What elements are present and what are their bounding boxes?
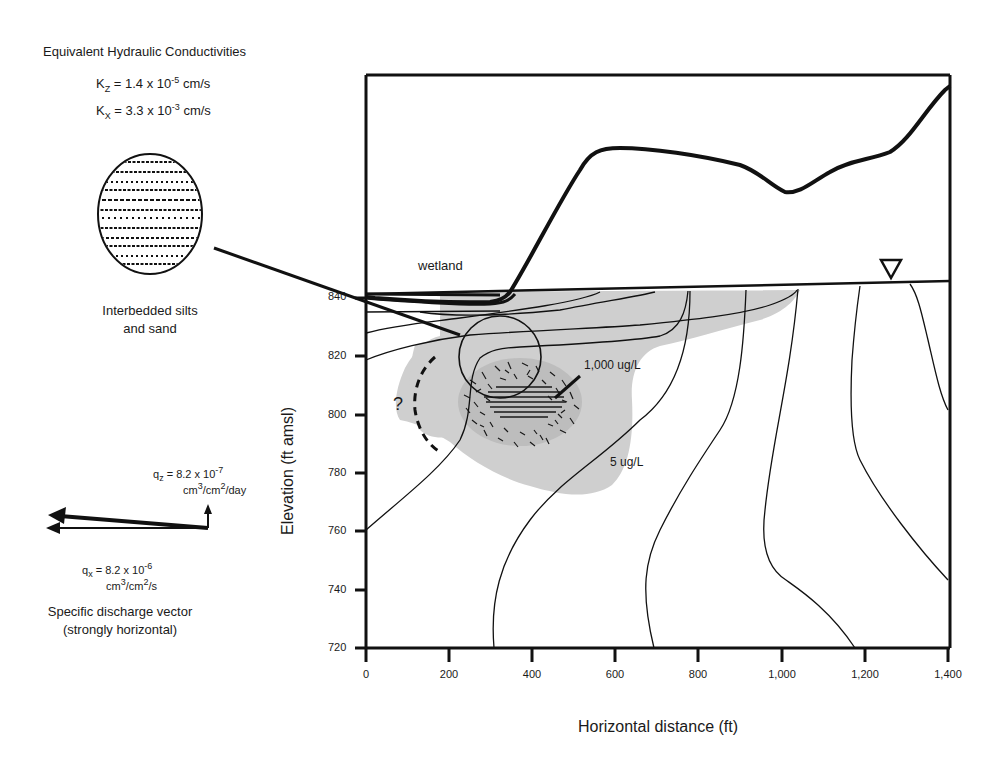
kz-number: = 1.4 x 10: [114, 76, 171, 91]
x-tick-400: 400: [512, 668, 552, 680]
kx-exp: -3: [172, 102, 180, 112]
y-tick-740: 740: [328, 583, 346, 595]
kz-sub: Z: [105, 84, 111, 94]
x-tick-1000: 1,000: [757, 668, 807, 680]
unknown-label: ?: [393, 394, 403, 415]
qz-exp: -7: [215, 465, 223, 475]
qx-unit: cm3/cm2/s: [106, 577, 157, 592]
kx-unit: cm/s: [180, 103, 211, 118]
kz-value: KZ = 1.4 x 10-5 cm/s: [96, 75, 210, 94]
x-tick-800: 800: [678, 668, 718, 680]
discharge-caption-line1: Specific discharge vector: [20, 604, 220, 619]
discharge-caption-line2: (strongly horizontal): [20, 622, 220, 637]
wetland-label: wetland: [418, 258, 463, 273]
kz-symbol: K: [96, 76, 105, 91]
qx-number: = 8.2 x 10: [93, 564, 145, 576]
qz-unit-c: /day: [225, 484, 246, 496]
y-tick-840: 840: [328, 290, 346, 302]
qz-unit-a: cm: [183, 484, 198, 496]
x-tick-200: 200: [429, 668, 469, 680]
qz-unit: cm3/cm2/day: [183, 481, 246, 496]
kx-value: KX = 3.3 x 10-3 cm/s: [96, 102, 211, 121]
y-tick-780: 780: [328, 466, 346, 478]
qx-unit-a: cm: [106, 580, 121, 592]
x-tick-1400: 1,400: [923, 668, 973, 680]
x-tick-600: 600: [595, 668, 635, 680]
kz-unit: cm/s: [179, 76, 210, 91]
inset-label-line2: and sand: [80, 321, 220, 336]
y-tick-720: 720: [328, 641, 346, 653]
conc-low-label: 5 ug/L: [610, 455, 643, 469]
legend-title: Equivalent Hydraulic Conductivities: [43, 44, 246, 59]
kx-number: = 3.3 x 10: [114, 103, 171, 118]
x-tick-0: 0: [346, 668, 386, 680]
kx-sub: X: [105, 111, 111, 121]
y-tick-820: 820: [328, 349, 346, 361]
kx-symbol: K: [96, 103, 105, 118]
y-axis-ticks: [355, 298, 366, 648]
y-tick-760: 760: [328, 524, 346, 536]
conc-high-label: 1,000 ug/L: [584, 358, 641, 372]
qx-unit-b: /cm: [126, 580, 144, 592]
qz-unit-b: /cm: [203, 484, 221, 496]
x-axis-title: Horizontal distance (ft): [508, 718, 808, 736]
inset-stratigraphy: [96, 154, 204, 274]
qx-exp: -6: [144, 561, 152, 571]
y-axis-title: Elevation (ft amsl): [279, 381, 297, 561]
inset-label-line1: Interbedded silts: [80, 303, 220, 318]
x-tick-1200: 1,200: [840, 668, 890, 680]
x-axis-ticks: [366, 648, 948, 662]
water-table-symbol-icon: [881, 260, 901, 278]
y-tick-800: 800: [328, 408, 346, 420]
discharge-vector-arrows: [46, 504, 212, 534]
qz-number: = 8.2 x 10: [164, 468, 216, 480]
qx-unit-c: /s: [148, 580, 157, 592]
